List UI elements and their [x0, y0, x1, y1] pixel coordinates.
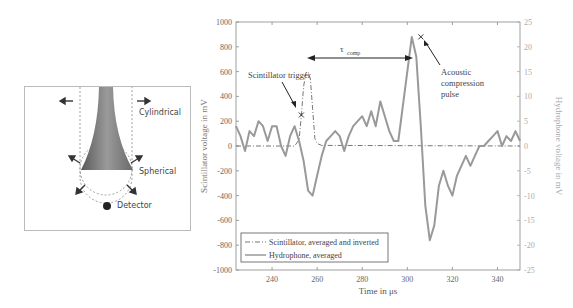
svg-text:280: 280 — [356, 275, 368, 284]
svg-text:-400: -400 — [217, 192, 232, 201]
svg-text:600: 600 — [220, 68, 232, 77]
annotations: τcompScintillator triggerAcousticcompres… — [248, 34, 485, 117]
svg-text:25: 25 — [524, 18, 532, 27]
svg-text:20: 20 — [524, 43, 532, 52]
chart: 240260280300320340 10008006004002000-200… — [0, 0, 573, 308]
x-axis-label: Time in μs — [359, 286, 398, 296]
svg-text:0: 0 — [228, 142, 232, 151]
svg-text:240: 240 — [266, 275, 278, 284]
legend-item-scintillator: Scintillator, averaged and inverted — [269, 238, 379, 247]
svg-text:0: 0 — [524, 142, 528, 151]
svg-text:10: 10 — [524, 92, 532, 101]
svg-text:300: 300 — [401, 275, 413, 284]
svg-text:15: 15 — [524, 68, 532, 77]
svg-text:compression: compression — [441, 78, 485, 88]
right-y-axis-label: Hydrophone voltage in mV — [554, 97, 564, 196]
svg-text:-5: -5 — [524, 167, 531, 176]
svg-text:-15: -15 — [524, 216, 535, 225]
legend: Scintillator, averaged and inverted Hydr… — [241, 233, 388, 262]
svg-text:pulse: pulse — [441, 89, 459, 99]
svg-text:800: 800 — [220, 43, 232, 52]
svg-text:260: 260 — [311, 275, 323, 284]
svg-text:1000: 1000 — [216, 18, 232, 27]
svg-text:comp: comp — [347, 50, 360, 56]
svg-text:-25: -25 — [524, 266, 535, 275]
svg-text:-20: -20 — [524, 241, 535, 250]
svg-text:5: 5 — [524, 117, 528, 126]
legend-item-hydrophone: Hydrophone, averaged — [269, 251, 342, 260]
svg-text:τ: τ — [340, 44, 344, 54]
svg-text:Scintillator trigger: Scintillator trigger — [248, 70, 311, 80]
plot-series — [236, 37, 520, 240]
svg-text:-800: -800 — [217, 241, 232, 250]
svg-text:400: 400 — [220, 92, 232, 101]
svg-text:320: 320 — [446, 275, 458, 284]
svg-text:340: 340 — [491, 275, 503, 284]
svg-text:-1000: -1000 — [213, 266, 232, 275]
svg-text:-600: -600 — [217, 216, 232, 225]
svg-text:-200: -200 — [217, 167, 232, 176]
svg-text:Acoustic: Acoustic — [441, 67, 471, 77]
left-y-axis-label: Scintillator voltage in mV — [199, 99, 209, 193]
left-y-axis: 10008006004002000-200-400-600-800-1000 — [213, 18, 239, 275]
svg-text:-10: -10 — [524, 192, 535, 201]
svg-text:200: 200 — [220, 117, 232, 126]
